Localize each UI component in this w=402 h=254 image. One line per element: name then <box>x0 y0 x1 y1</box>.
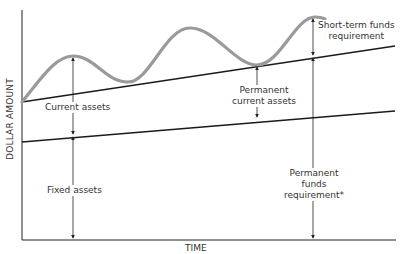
permanent-funds-label: Permanent funds requirement* <box>284 168 344 201</box>
current-assets-label: Current assets <box>45 102 110 113</box>
permanent-current-assets-label: Permanent current assets <box>232 85 296 107</box>
fixed-assets-label: Fixed assets <box>47 185 102 196</box>
x-axis-label: TIME <box>185 243 207 253</box>
short-term-funds-label: Short-term funds requirement <box>318 20 395 42</box>
permanent-funds-line2: funds <box>284 179 344 190</box>
permanent-current-assets-line2: current assets <box>232 96 296 107</box>
fixed-assets-line <box>22 111 395 142</box>
short-term-funds-line1: Short-term funds <box>318 20 395 31</box>
y-axis-label: DOLLAR AMOUNT <box>5 78 15 160</box>
permanent-current-assets-line1: Permanent <box>232 85 296 96</box>
permanent-funds-line3: requirement* <box>284 190 344 201</box>
permanent-current-assets-line <box>22 46 395 102</box>
short-term-funds-line2: requirement <box>318 31 395 42</box>
permanent-funds-line1: Permanent <box>284 168 344 179</box>
